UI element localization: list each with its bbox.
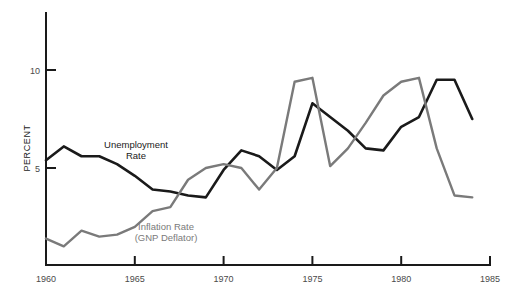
line-chart-canvas: 510 196019651970197519801985 Unemploymen… xyxy=(0,0,514,293)
chart-figure: 510 196019651970197519801985 Unemploymen… xyxy=(0,0,514,293)
data-series-group xyxy=(46,78,472,247)
series-annotations: UnemploymentRateInflation Rate(GNP Defla… xyxy=(104,139,197,243)
x-tick-label-1965: 1965 xyxy=(125,274,145,284)
y-axis-ticks: 510 xyxy=(30,66,56,174)
x-tick-label-1970: 1970 xyxy=(214,274,234,284)
x-tick-label-1975: 1975 xyxy=(302,274,322,284)
y-tick-label-5: 5 xyxy=(35,164,40,174)
x-tick-label-1985: 1985 xyxy=(480,274,500,284)
x-tick-label-1960: 1960 xyxy=(36,274,56,284)
x-axis-ticks: 196019651970197519801985 xyxy=(36,256,500,284)
y-tick-label-10: 10 xyxy=(30,66,40,76)
y-axis-title: PERCENT xyxy=(22,124,32,171)
inflation-label: Inflation Rate(GNP Deflator) xyxy=(135,221,198,243)
x-tick-label-1980: 1980 xyxy=(391,274,411,284)
unemployment-label: UnemploymentRate xyxy=(104,139,168,161)
